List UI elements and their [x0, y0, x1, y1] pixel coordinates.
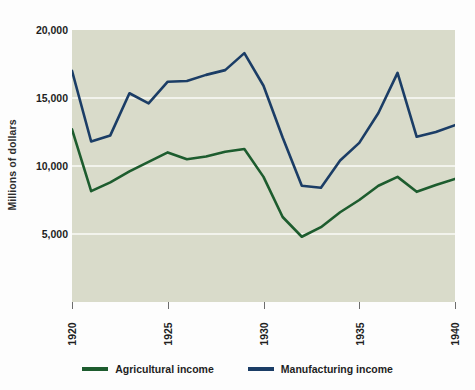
y-tick-label-20000: 20,000 — [22, 24, 68, 36]
series-lines — [72, 53, 455, 237]
x-tick-mark-1930 — [264, 302, 265, 309]
x-tick-label-1920: 1920 — [50, 311, 94, 325]
legend-swatch-icon — [82, 367, 108, 371]
x-axis: 19201925193019351940 — [0, 302, 475, 362]
legend-item-manufacturing-income[interactable]: Manufacturing income — [248, 363, 393, 375]
chart-legend: Agricultural incomeManufacturing income — [0, 357, 475, 381]
y-axis-title-label: Millions of dollars — [6, 119, 18, 210]
x-tick-mark-1920 — [72, 302, 73, 309]
x-tick-mark-1925 — [168, 302, 169, 309]
x-tick-label-1925: 1925 — [146, 311, 190, 325]
x-tick-mark-1935 — [359, 302, 360, 309]
chart-canvas — [72, 30, 455, 302]
y-tick-label-15000: 15,000 — [22, 92, 68, 104]
x-tick-mark-1940 — [455, 302, 456, 309]
legend-label: Manufacturing income — [281, 363, 393, 375]
legend-swatch-icon — [248, 367, 274, 371]
series-line-agricultural-income — [72, 129, 455, 236]
y-tick-label-5000: 5,000 — [22, 228, 68, 240]
chart-figure: Millions of dollars 20,00015,00010,0005,… — [0, 0, 475, 390]
legend-item-agricultural-income[interactable]: Agricultural income — [82, 363, 214, 375]
y-tick-label-10000: 10,000 — [22, 160, 68, 172]
x-tick-label-1935: 1935 — [337, 311, 381, 325]
x-tick-label-1940: 1940 — [433, 311, 475, 325]
plot-area — [72, 30, 455, 302]
x-tick-label-1930: 1930 — [242, 311, 286, 325]
gridlines — [72, 98, 455, 234]
legend-label: Agricultural income — [115, 363, 214, 375]
series-line-manufacturing-income — [72, 53, 455, 188]
